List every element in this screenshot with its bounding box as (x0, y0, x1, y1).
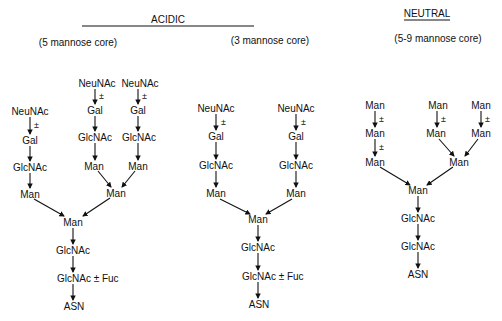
core-man: Man (63, 217, 82, 228)
sugar-man-branch: Man (106, 188, 125, 199)
sugar-man: Man (286, 188, 305, 199)
sugar-man: Man (471, 128, 490, 139)
sugar-glcnac: GlcNAc (199, 160, 233, 171)
core-man: Man (408, 185, 427, 196)
sugar-gal: Gal (22, 135, 38, 146)
sugar-man: Man (20, 189, 39, 200)
sugar-man: Man (365, 128, 384, 139)
sugar-glcnac: GlcNAc (78, 132, 112, 143)
sugar-neunac: NeuNAc (197, 103, 234, 114)
optional-marker: ± (485, 115, 490, 124)
optional-marker: ± (379, 115, 384, 124)
core-5-label: (5 mannose core) (39, 37, 117, 48)
sugar-man: Man (365, 157, 384, 168)
sugar-neunac: NeuNAc (78, 78, 115, 89)
optional-marker: ± (142, 92, 147, 101)
sugar-man: Man (128, 161, 147, 172)
neutral-heading: NEUTRAL (404, 8, 451, 19)
acidic-heading: ACIDIC (151, 14, 185, 25)
core-asn: ASN (408, 269, 429, 280)
sugar-man: Man (426, 128, 445, 139)
core-glcnac: GlcNAc (401, 241, 435, 252)
optional-marker: ± (221, 118, 226, 127)
core-glcnac: GlcNAc (401, 213, 435, 224)
sugar-man: Man (365, 100, 384, 111)
sugar-gal: Gal (288, 131, 304, 142)
core-glcnac-fuc: GlcNAc ± Fuc (57, 273, 119, 284)
sugar-neunac: NeuNAc (11, 106, 48, 117)
sugar-gal: Gal (87, 105, 103, 116)
sugar-neunac: NeuNAc (121, 78, 158, 89)
sugar-glcnac: GlcNAc (122, 132, 156, 143)
core-glcnac: GlcNAc (241, 242, 275, 253)
sugar-man: Man (471, 100, 490, 111)
optional-marker: ± (34, 121, 39, 130)
sugar-man: Man (206, 188, 225, 199)
optional-marker: ± (301, 118, 306, 127)
core-3-label: (3 mannose core) (231, 35, 309, 46)
core-asn: ASN (64, 301, 85, 312)
sugar-neunac: NeuNAc (277, 103, 314, 114)
optional-marker: ± (99, 92, 104, 101)
sugar-gal: Gal (130, 105, 146, 116)
core-glcnac: GlcNAc (56, 245, 90, 256)
core-5-9-label: (5-9 mannose core) (394, 33, 481, 44)
sugar-glcnac: GlcNAc (13, 162, 47, 173)
sugar-glcnac: GlcNAc (279, 160, 313, 171)
sugar-man: Man (428, 100, 447, 111)
optional-marker: ± (379, 143, 384, 152)
optional-marker: ± (441, 115, 446, 124)
core-man: Man (248, 214, 267, 225)
sugar-man-branch: Man (449, 157, 468, 168)
sugar-gal: Gal (208, 131, 224, 142)
core-glcnac-fuc: GlcNAc ± Fuc (242, 271, 304, 282)
sugar-man: Man (84, 161, 103, 172)
core-asn: ASN (249, 299, 270, 310)
